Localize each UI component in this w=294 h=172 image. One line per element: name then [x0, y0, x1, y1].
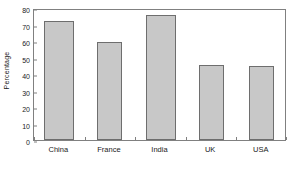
bar — [249, 66, 274, 140]
y-axis-tick-mark — [34, 26, 37, 27]
x-axis-tick-mark — [85, 137, 86, 140]
y-axis-tick-label: 0 — [26, 139, 30, 146]
x-axis-category-label: France — [97, 145, 120, 154]
y-axis-title-label: Percentage — [4, 51, 11, 89]
y-axis-tick-label: 30 — [22, 89, 30, 96]
bar-chart-figure: Percentage 01020304050607080 ChinaFrance… — [0, 0, 294, 172]
x-axis-tick-mark — [236, 137, 237, 140]
y-axis-tick-label: 50 — [22, 56, 30, 63]
bar — [199, 65, 224, 140]
y-axis-tick-mark — [34, 109, 37, 110]
x-axis-tick-mark — [135, 137, 136, 140]
y-axis-tick-mark — [34, 76, 37, 77]
y-axis-tick-label: 60 — [22, 40, 30, 47]
x-axis-tick-mark — [186, 137, 187, 140]
y-axis-tick-mark — [34, 92, 37, 93]
plot-area: 01020304050607080 — [33, 9, 286, 141]
y-axis-tick-label: 20 — [22, 106, 30, 113]
y-axis-tick-mark — [34, 10, 37, 11]
y-axis-tick-mark — [34, 142, 37, 143]
bar — [146, 15, 176, 140]
bar — [44, 21, 74, 140]
y-axis-tick-label: 80 — [22, 7, 30, 14]
x-axis-tick-mark — [34, 137, 35, 140]
x-axis-tick-mark — [286, 137, 287, 140]
x-axis-category-label: China — [48, 145, 68, 154]
y-axis-title: Percentage — [0, 0, 14, 140]
y-axis-tick-label: 40 — [22, 73, 30, 80]
y-axis-tick-label: 70 — [22, 23, 30, 30]
x-axis-category-label: UK — [205, 145, 215, 154]
x-axis-category-label: India — [151, 145, 167, 154]
y-axis-tick-mark — [34, 59, 37, 60]
y-axis-tick-label: 10 — [22, 122, 30, 129]
y-axis-tick-mark — [34, 43, 37, 44]
y-axis-tick-mark — [34, 125, 37, 126]
x-axis-category-label: USA — [253, 145, 268, 154]
bar — [97, 42, 122, 140]
